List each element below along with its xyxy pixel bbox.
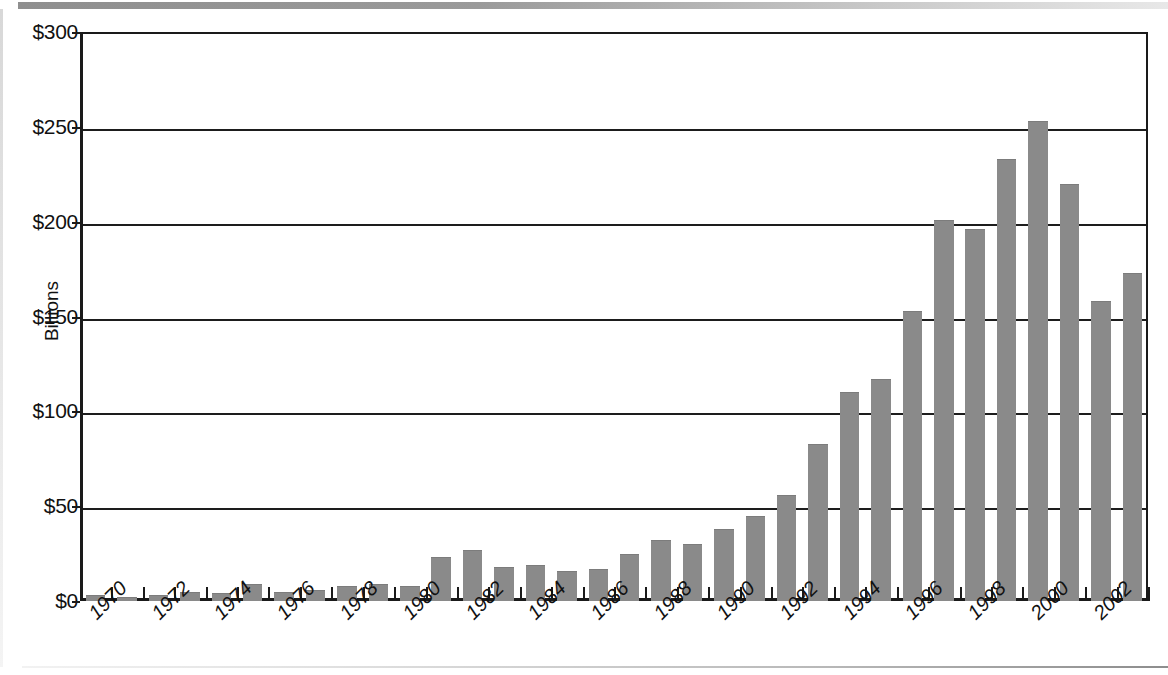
bar[interactable] [840, 392, 859, 601]
bar[interactable] [997, 159, 1016, 601]
bar-chart: Billions $0$50$100$150$200$250$300 19701… [0, 0, 1168, 675]
bars-series [80, 32, 1148, 601]
x-axis-tick-mark [206, 587, 208, 601]
y-axis-tick-mark [72, 222, 80, 224]
x-axis-tick-mark [80, 587, 82, 601]
x-axis-tick-mark [143, 587, 145, 601]
y-axis-tick-mark [72, 32, 80, 34]
x-axis-tick-mark [645, 587, 647, 601]
y-axis-tick-label: $200 [0, 211, 78, 232]
x-axis-tick-mark [1085, 587, 1087, 601]
bar[interactable] [808, 444, 827, 601]
y-axis-tick-label: $150 [0, 306, 78, 327]
x-axis-tick-mark [1022, 587, 1024, 601]
y-axis-tick-mark [72, 506, 80, 508]
x-axis-tick-mark [1148, 587, 1150, 601]
x-axis-tick-mark [583, 587, 585, 601]
y-axis-tick-mark [72, 127, 80, 129]
x-axis-tick-mark [708, 587, 710, 601]
x-axis-tick-mark [457, 587, 459, 601]
x-axis-tick-mark [897, 587, 899, 601]
y-axis-tick-mark [72, 601, 80, 603]
bar[interactable] [934, 220, 953, 601]
bar[interactable] [903, 311, 922, 601]
y-axis-tick-label: $250 [0, 116, 78, 137]
x-axis-tick-mark [960, 587, 962, 601]
y-axis-tick-label: $50 [0, 495, 78, 516]
bar[interactable] [871, 379, 890, 601]
chart-page: Billions $0$50$100$150$200$250$300 19701… [0, 0, 1168, 675]
x-axis-tick-mark [520, 587, 522, 601]
x-axis-tick-mark [834, 587, 836, 601]
bar[interactable] [1028, 121, 1047, 601]
bar[interactable] [965, 229, 984, 601]
x-axis-tick-mark [268, 587, 270, 601]
y-axis-tick-mark [72, 411, 80, 413]
bar[interactable] [777, 495, 796, 601]
x-axis-tick-mark [331, 587, 333, 601]
bar[interactable] [1123, 273, 1142, 601]
x-axis-tick-mark [771, 587, 773, 601]
x-axis-tick-mark [394, 587, 396, 601]
y-axis-tick-label: $0 [0, 590, 78, 611]
y-axis-tick-label: $100 [0, 400, 78, 421]
bar[interactable] [1060, 184, 1079, 601]
bar[interactable] [1091, 301, 1110, 601]
y-axis-tick-label: $300 [0, 21, 78, 42]
y-axis-tick-mark [72, 317, 80, 319]
